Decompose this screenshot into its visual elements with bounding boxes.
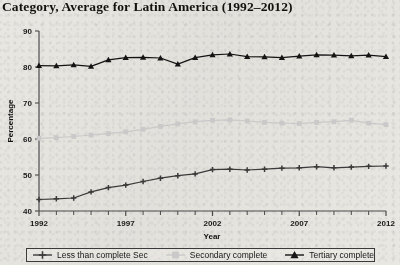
data-point-marker bbox=[227, 118, 232, 123]
series-2 bbox=[37, 118, 389, 141]
data-point-marker bbox=[54, 135, 59, 140]
data-point-marker bbox=[349, 118, 354, 123]
data-point-marker bbox=[158, 124, 163, 129]
data-point-marker bbox=[331, 165, 336, 170]
data-point-marker bbox=[279, 165, 284, 170]
data-point-marker bbox=[384, 122, 389, 127]
legend-item-1[interactable]: Less than complete Sec bbox=[27, 249, 148, 261]
data-point-marker bbox=[383, 163, 388, 168]
data-point-marker bbox=[141, 127, 146, 132]
y-tick-label: 40 bbox=[23, 207, 32, 216]
data-point-marker bbox=[37, 136, 42, 141]
legend-marker-triangle-icon bbox=[284, 250, 305, 260]
y-tick-label: 50 bbox=[23, 171, 32, 180]
y-axis-title: Percentage bbox=[6, 99, 15, 143]
data-point-marker bbox=[175, 173, 180, 178]
series-3 bbox=[36, 51, 389, 69]
y-tick-label: 60 bbox=[23, 135, 32, 144]
data-point-marker bbox=[297, 121, 302, 126]
x-tick-label: 1992 bbox=[30, 219, 48, 228]
data-point-marker bbox=[88, 189, 93, 194]
data-point-marker bbox=[366, 164, 371, 169]
chart-legend: Less than complete SecSecondary complete… bbox=[26, 248, 375, 262]
data-point-marker bbox=[262, 167, 267, 172]
legend-marker-square-icon bbox=[165, 250, 186, 260]
data-point-marker bbox=[89, 133, 94, 138]
data-point-marker bbox=[245, 167, 250, 172]
data-point-marker bbox=[227, 167, 232, 172]
x-tick-label: 2002 bbox=[204, 219, 222, 228]
x-tick-label: 2012 bbox=[377, 219, 395, 228]
legend-label: Secondary complete bbox=[190, 251, 268, 260]
legend-label: Less than complete Sec bbox=[57, 251, 148, 260]
data-point-marker bbox=[123, 129, 128, 134]
chart-canvas: 405060708090 19921997200220072012 Percen… bbox=[0, 0, 400, 265]
legend-item-2[interactable]: Secondary complete bbox=[160, 249, 268, 261]
data-point-marker bbox=[314, 120, 319, 125]
data-point-marker bbox=[349, 164, 354, 169]
data-point-marker bbox=[106, 185, 111, 190]
data-point-marker bbox=[106, 131, 111, 136]
data-point-marker bbox=[280, 121, 285, 126]
legend-item-3[interactable]: Tertiary complete bbox=[279, 249, 374, 261]
data-point-marker bbox=[192, 171, 197, 176]
data-point-marker bbox=[193, 119, 198, 124]
y-tick-label: 80 bbox=[23, 63, 32, 72]
data-point-marker bbox=[158, 176, 163, 181]
data-point-marker bbox=[314, 164, 319, 169]
x-axis-title: Year bbox=[204, 232, 221, 241]
y-tick-label: 70 bbox=[23, 99, 32, 108]
x-tick-label: 1997 bbox=[117, 219, 135, 228]
data-point-marker bbox=[71, 195, 76, 200]
data-point-marker bbox=[140, 179, 145, 184]
series-1 bbox=[36, 163, 388, 202]
x-axis: 19921997200220072012 bbox=[30, 211, 395, 228]
legend-marker-plus-icon bbox=[32, 250, 53, 260]
data-point-marker bbox=[210, 167, 215, 172]
data-point-marker bbox=[245, 119, 250, 124]
line-chart-svg: 405060708090 19921997200220072012 Percen… bbox=[0, 0, 400, 265]
y-tick-label: 90 bbox=[23, 27, 32, 36]
y-axis: 405060708090 bbox=[23, 27, 39, 216]
legend-label: Tertiary complete bbox=[309, 251, 374, 260]
data-point-marker bbox=[54, 196, 59, 201]
data-point-marker bbox=[71, 134, 76, 139]
series-container bbox=[36, 51, 389, 202]
data-point-marker bbox=[36, 197, 41, 202]
data-point-marker bbox=[172, 252, 179, 259]
x-tick-label: 2007 bbox=[290, 219, 308, 228]
data-point-marker bbox=[262, 120, 267, 125]
data-point-marker bbox=[297, 165, 302, 170]
data-point-marker bbox=[175, 121, 180, 126]
data-point-marker bbox=[210, 118, 215, 123]
data-point-marker bbox=[123, 182, 128, 187]
data-point-marker bbox=[39, 251, 46, 258]
data-point-marker bbox=[366, 121, 371, 126]
data-point-marker bbox=[332, 119, 337, 124]
